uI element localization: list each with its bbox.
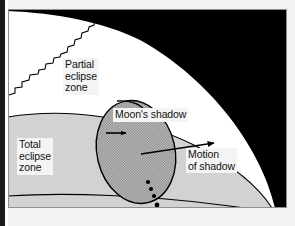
left-gutter-bar: [0, 0, 5, 226]
shadow-path-dot: [146, 180, 150, 184]
shadow-path-dot: [149, 187, 153, 191]
shadow-path-dot: [155, 203, 160, 208]
shadow-path-dot: [152, 194, 156, 198]
eclipse-diagram-figure: Partial eclipse zone Total eclipse zone …: [0, 0, 295, 226]
label-motion-of-shadow: Motion of shadow: [186, 148, 237, 173]
left-gutter-highlight: [5, 0, 8, 226]
label-partial-eclipse-zone: Partial eclipse zone: [63, 58, 99, 95]
label-total-eclipse-zone: Total eclipse zone: [17, 138, 53, 175]
label-moons-shadow: Moon's shadow: [113, 108, 188, 122]
